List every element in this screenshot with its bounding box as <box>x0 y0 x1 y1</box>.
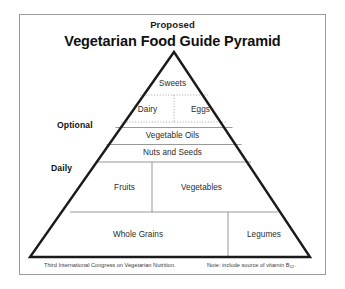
tier-label-dairy: Dairy <box>121 105 174 114</box>
tier-label-sweets: Sweets <box>0 79 345 88</box>
footnote-left: Third International Congress on Vegetari… <box>44 262 176 268</box>
tier-divider-lines <box>152 162 228 257</box>
footnote-right-subscript: 12 <box>289 264 294 269</box>
footnote-right-prefix: Note: include source of vitamin B <box>207 262 289 268</box>
vegetarian-food-guide-pyramid-figure: Proposed Vegetarian Food Guide Pyramid S… <box>0 0 345 289</box>
tier-label-whole-grains: Whole Grains <box>48 230 228 239</box>
side-label-optional: Optional <box>57 120 93 130</box>
tier-label-eggs: Eggs <box>174 105 227 114</box>
footnote-right-suffix: . <box>294 262 296 268</box>
footnote-right: Note: include source of vitamin B12. <box>207 262 296 268</box>
tier-label-fruits: Fruits <box>97 183 152 192</box>
side-label-daily: Daily <box>51 163 72 173</box>
tier-label-vegetable-oils: Vegetable Oils <box>0 131 345 140</box>
tier-label-nuts-and-seeds: Nuts and Seeds <box>0 148 345 157</box>
tier-separator-lines <box>70 128 278 213</box>
pyramid-diagram <box>0 0 345 289</box>
tier-label-legumes: Legumes <box>228 230 300 239</box>
tier-label-vegetables: Vegetables <box>152 183 251 192</box>
